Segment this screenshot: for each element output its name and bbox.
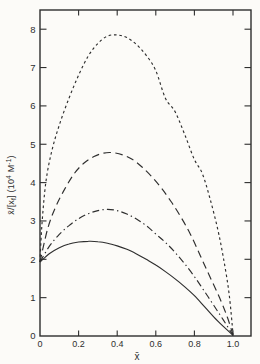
x-tick-label: 0.8	[188, 339, 201, 349]
curve-solid	[40, 241, 233, 335]
x-tick-label: 1.0	[227, 339, 240, 349]
x-axis-label: x̄	[135, 351, 140, 362]
binding-isotherm-figure: 01234567800.20.40.60.81.0 x̄/[xf] (104 M…	[0, 0, 260, 364]
y-axis-label: x̄/[xf] (104 M-1)	[5, 155, 18, 214]
y-tick-label: 4	[30, 177, 35, 188]
y-axis-label-part: f	[10, 198, 17, 200]
curve-short-dash	[40, 35, 233, 334]
y-axis-label-part: )	[6, 155, 16, 158]
y-axis-label-part: -1	[5, 158, 12, 164]
y-tick-label: 0	[30, 330, 35, 341]
y-tick-label: 2	[30, 254, 35, 265]
y-axis-label-part: M	[6, 165, 16, 175]
y-axis-label-part: ] (10	[6, 179, 16, 198]
x-tick-label: 0	[37, 339, 42, 349]
y-axis-label-part: x̄/[x	[6, 200, 16, 215]
plot-box	[40, 10, 251, 336]
x-tick-label: 0.2	[72, 339, 85, 349]
y-tick-label: 8	[30, 24, 35, 35]
y-tick-label: 1	[30, 292, 35, 303]
y-tick-label: 3	[30, 215, 35, 226]
x-tick-label: 0.6	[150, 339, 163, 349]
y-tick-label: 5	[30, 139, 35, 150]
y-tick-label: 7	[30, 62, 35, 73]
curve-dash-dot	[40, 209, 233, 335]
x-tick-label: 0.4	[111, 339, 124, 349]
y-axis-label-part: 4	[5, 175, 12, 179]
y-tick-label: 6	[30, 100, 35, 111]
binding-curves-chart: 01234567800.20.40.60.81.0	[0, 0, 260, 364]
